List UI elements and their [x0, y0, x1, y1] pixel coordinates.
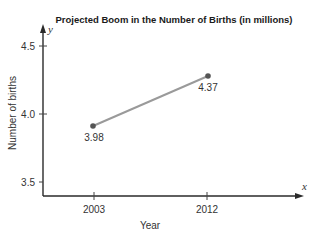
chart-title: Projected Boom in the Number of Births (… [56, 14, 293, 25]
x-tick-label: 2003 [83, 204, 106, 215]
data-label-2012: 4.37 [198, 82, 218, 93]
x-axis: x 2003 2012 Year [43, 180, 307, 231]
y-tick-label: 4.0 [21, 109, 35, 120]
series-births: 3.98 4.37 [84, 73, 218, 143]
x-axis-arrow-icon [295, 193, 304, 199]
y-axis-arrow-icon [40, 24, 46, 33]
data-point-2012 [205, 73, 211, 79]
series-line [93, 76, 208, 126]
y-axis: y 4.5 4.0 3.5 Number of births [7, 23, 53, 196]
x-axis-letter: x [301, 180, 307, 192]
y-tick-label: 4.5 [21, 41, 35, 52]
data-label-2003: 3.98 [84, 132, 104, 143]
data-point-2003 [90, 123, 96, 129]
x-axis-label: Year [140, 220, 161, 231]
y-axis-letter: y [47, 23, 53, 35]
x-tick-label: 2012 [196, 204, 219, 215]
y-tick-label: 3.5 [21, 177, 35, 188]
y-axis-label: Number of births [7, 76, 18, 150]
line-chart: Projected Boom in the Number of Births (… [0, 0, 318, 236]
